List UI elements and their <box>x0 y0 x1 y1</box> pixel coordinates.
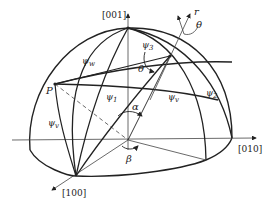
point-p <box>53 82 56 85</box>
pole-point <box>126 26 129 29</box>
hemisphere-outline <box>30 28 232 150</box>
arc-point-to-base <box>76 56 170 176</box>
psi-3-label: ψ3 <box>142 40 154 52</box>
r-label: r <box>194 6 200 17</box>
alpha-label: α <box>132 101 139 112</box>
r-point <box>168 54 171 57</box>
psi-1-label: ψ1 <box>106 92 118 104</box>
dashed-p-to-origin <box>55 84 128 140</box>
axis-label-001: [001] <box>102 10 126 20</box>
axis-label-010: [010] <box>238 144 262 154</box>
beta-arc <box>122 146 138 149</box>
line-origin-to-lower-right <box>128 140 206 160</box>
axis-label-100: [100] <box>62 188 86 198</box>
r-vector-branch <box>178 16 184 34</box>
theta-label-top: θ <box>196 19 202 30</box>
psi-v-label: ψv <box>168 92 179 104</box>
axis-010 <box>12 138 256 140</box>
alpha-arc <box>118 112 142 117</box>
meridian-arc-2 <box>76 28 128 176</box>
point-p-label: P <box>45 85 53 96</box>
psi-v-left-label: ψv <box>48 118 59 130</box>
theta-label-mid: θ <box>138 63 144 74</box>
beta-label: β <box>125 153 132 164</box>
axis-100 <box>52 140 128 190</box>
orientation-hemisphere-diagram: [001] [010] [100] r θ P α β θ ψ3 ψw ψ1 ψ… <box>0 0 269 203</box>
